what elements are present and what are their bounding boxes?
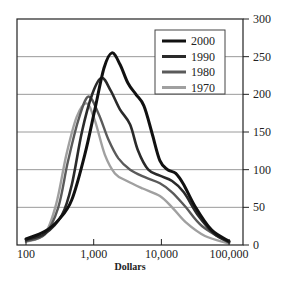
y-tick-label: 50: [253, 200, 265, 214]
x-tick-label: 100,000: [210, 247, 249, 261]
y-tick-label: 250: [253, 50, 271, 64]
y-tick-label: 200: [253, 87, 271, 101]
legend-label-2000: 2000: [191, 34, 215, 48]
x-tick-label: 10,000: [145, 247, 178, 261]
income-distribution-chart: 1001,00010,000100,000 050100150200250300…: [0, 0, 283, 288]
series-1990-line: [26, 78, 229, 242]
y-axis: 050100150200250300: [243, 12, 271, 252]
legend: 2000199019801970: [155, 30, 225, 95]
y-tick-label: 100: [253, 163, 271, 177]
x-tick-label: 100: [17, 247, 35, 261]
legend-label-1980: 1980: [191, 65, 215, 79]
y-tick-label: 300: [253, 12, 271, 26]
legend-label-1990: 1990: [191, 50, 215, 64]
y-tick-label: 150: [253, 125, 271, 139]
legend-label-1970: 1970: [191, 81, 215, 95]
x-tick-label: 1,000: [80, 247, 107, 261]
x-axis: 1001,00010,000100,000: [17, 239, 249, 261]
x-axis-title: Dollars: [114, 261, 145, 272]
y-tick-label: 0: [253, 238, 259, 252]
